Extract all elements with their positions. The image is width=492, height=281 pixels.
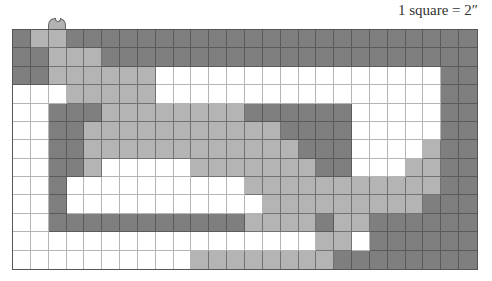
grid-cell	[156, 30, 174, 48]
grid-cell	[245, 251, 263, 269]
grid-cell	[352, 251, 370, 269]
grid-cell	[370, 159, 388, 177]
grid-cell	[441, 159, 459, 177]
grid-cell	[102, 159, 120, 177]
grid-cell	[67, 30, 85, 48]
grid-cell	[120, 67, 138, 85]
grid-cell	[120, 104, 138, 122]
grid-cell	[299, 251, 317, 269]
grid-cell	[156, 122, 174, 140]
grid-cell	[459, 195, 477, 213]
grid-cell	[120, 214, 138, 232]
grid-cell	[423, 159, 441, 177]
grid-cell	[120, 159, 138, 177]
grid-cell	[441, 251, 459, 269]
grid-cell	[67, 232, 85, 250]
grid-cell	[423, 67, 441, 85]
grid-cell	[334, 104, 352, 122]
grid-cell	[299, 159, 317, 177]
grid-cell	[191, 30, 209, 48]
grid-cell	[316, 104, 334, 122]
grid-cell	[156, 85, 174, 103]
grid-cell	[245, 67, 263, 85]
grid-cell	[352, 177, 370, 195]
grid-cell	[227, 177, 245, 195]
grid-cell	[263, 251, 281, 269]
grid-cell	[156, 140, 174, 158]
grid-cell	[13, 214, 31, 232]
grid-cell	[459, 177, 477, 195]
grid-cell	[49, 251, 67, 269]
grid-cell	[84, 195, 102, 213]
grid-cell	[299, 122, 317, 140]
grid-cell	[138, 159, 156, 177]
grid-cell	[13, 30, 31, 48]
grid-cell	[388, 85, 406, 103]
grid-cell	[263, 122, 281, 140]
grid-cell	[84, 251, 102, 269]
grid-cell	[120, 85, 138, 103]
grid-cell	[441, 140, 459, 158]
grid-cell	[227, 251, 245, 269]
grid-cell	[227, 232, 245, 250]
grid-cell	[352, 104, 370, 122]
grid-cell	[441, 30, 459, 48]
grid-cell	[352, 67, 370, 85]
grid-cell	[370, 85, 388, 103]
grid-cell	[227, 140, 245, 158]
grid-cell	[49, 140, 67, 158]
grid-cell	[263, 48, 281, 66]
grid-cell	[316, 214, 334, 232]
grid-cell	[31, 251, 49, 269]
grid-cell	[441, 122, 459, 140]
grid-cell	[245, 195, 263, 213]
grid-cell	[209, 30, 227, 48]
grid-cell	[352, 195, 370, 213]
grid-cell	[406, 159, 424, 177]
grid-cell	[441, 195, 459, 213]
grid-cell	[191, 67, 209, 85]
grid-cell	[459, 140, 477, 158]
grid-cell	[227, 85, 245, 103]
grid-cell	[227, 195, 245, 213]
grid-cell	[423, 195, 441, 213]
grid-cell	[281, 177, 299, 195]
grid-cell	[227, 30, 245, 48]
grid-cell	[102, 251, 120, 269]
grid-cell	[388, 214, 406, 232]
grid-cell	[406, 122, 424, 140]
grid-cell	[31, 85, 49, 103]
grid-cell	[352, 140, 370, 158]
grid-cell	[406, 232, 424, 250]
grid-cell	[334, 214, 352, 232]
grid-cell	[138, 251, 156, 269]
grid-cell	[174, 232, 192, 250]
grid-cell	[67, 214, 85, 232]
grid-cell	[138, 48, 156, 66]
grid-cell	[84, 232, 102, 250]
grid-cell	[13, 122, 31, 140]
grid-cell	[370, 67, 388, 85]
pattern-grid	[12, 29, 478, 270]
grid-cell	[84, 104, 102, 122]
grid-cell	[102, 122, 120, 140]
grid-cell	[245, 30, 263, 48]
grid-cell	[299, 67, 317, 85]
grid-cell	[120, 122, 138, 140]
grid-cell	[156, 232, 174, 250]
grid-cell	[352, 159, 370, 177]
grid-cell	[459, 232, 477, 250]
grid-cell	[138, 214, 156, 232]
grid-cell	[352, 122, 370, 140]
grid-cell	[227, 122, 245, 140]
grid-cell	[31, 195, 49, 213]
grid-cell	[406, 67, 424, 85]
grid-cell	[227, 159, 245, 177]
grid-cell	[370, 104, 388, 122]
grid-cell	[209, 140, 227, 158]
grid-cell	[191, 232, 209, 250]
grid-cell	[191, 177, 209, 195]
grid-cell	[388, 159, 406, 177]
grid-cell	[263, 140, 281, 158]
grid-cell	[388, 232, 406, 250]
